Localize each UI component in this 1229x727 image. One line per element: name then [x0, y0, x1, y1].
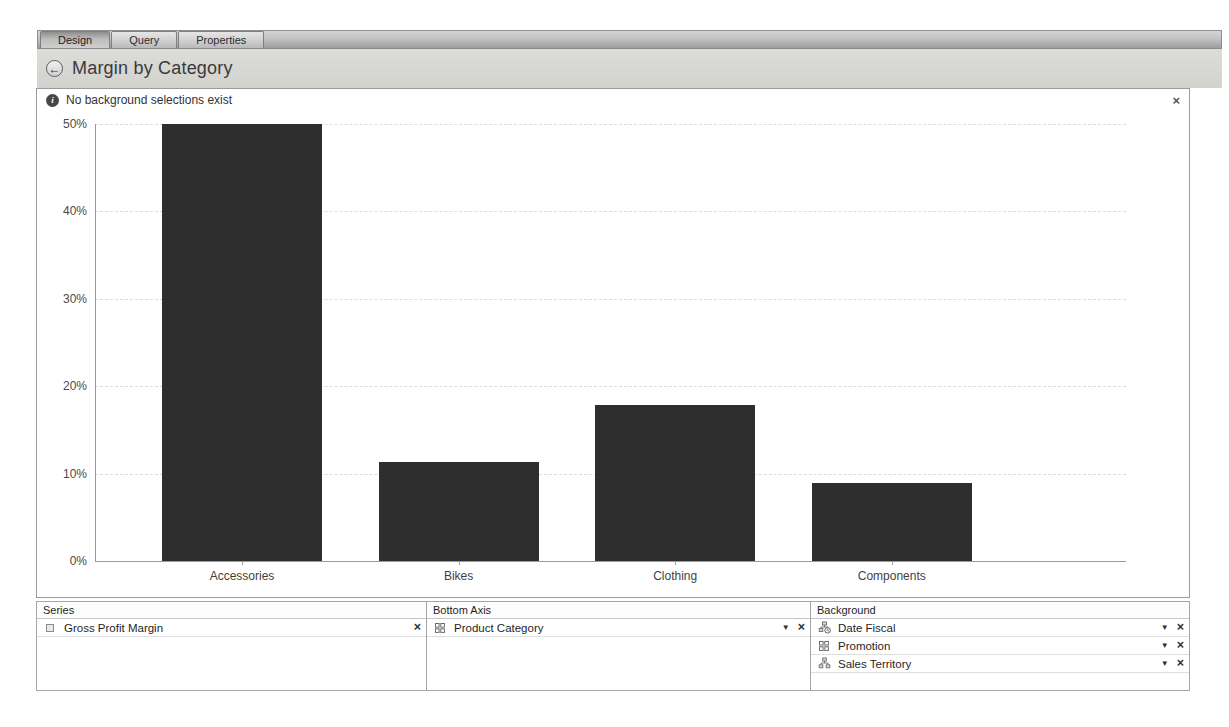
background-item-label: Sales Territory: [838, 658, 1153, 670]
tab-design[interactable]: Design: [40, 31, 110, 48]
dropdown-icon[interactable]: ▼: [1161, 642, 1169, 650]
x-axis-tick: [242, 561, 243, 565]
series-item-gross-profit-margin[interactable]: Gross Profit Margin ×: [37, 619, 426, 637]
bottom-axis-panel-header: Bottom Axis: [427, 602, 810, 619]
bottom-axis-item-product-category[interactable]: Product Category ▼ ×: [427, 619, 810, 637]
bottom-axis-item-label: Product Category: [454, 622, 774, 634]
category-label: Bikes: [369, 569, 549, 583]
y-axis-label: 20%: [49, 379, 87, 393]
report-header: ← Margin by Category: [37, 49, 1222, 88]
background-item-promotion[interactable]: Promotion ▼ ×: [811, 637, 1189, 655]
background-item-label: Date Fiscal: [838, 622, 1153, 634]
background-panel-header: Background: [811, 602, 1189, 619]
remove-icon[interactable]: ×: [1177, 657, 1184, 670]
field-panels: Series Gross Profit Margin × Bottom Axis…: [36, 601, 1190, 691]
bar-accessories[interactable]: [162, 124, 322, 561]
x-axis-line: [95, 561, 1126, 562]
tab-bar: Design Query Properties: [37, 30, 1222, 49]
background-item-date-fiscal[interactable]: Date Fiscal ▼ ×: [811, 619, 1189, 637]
remove-icon[interactable]: ×: [1177, 639, 1184, 652]
y-axis-label: 30%: [49, 292, 87, 306]
dimension-icon: [434, 621, 449, 634]
dashboard-designer-window: Design Query Properties ← Margin by Cate…: [0, 0, 1229, 727]
dropdown-icon[interactable]: ▼: [1161, 660, 1169, 668]
category-label: Accessories: [152, 569, 332, 583]
hierarchy-icon: [818, 657, 833, 670]
remove-icon[interactable]: ×: [1177, 621, 1184, 634]
date-hierarchy-icon: [818, 621, 833, 634]
x-axis-tick: [459, 561, 460, 565]
measure-icon: [44, 621, 59, 634]
remove-icon[interactable]: ×: [798, 621, 805, 634]
x-axis-tick: [675, 561, 676, 565]
dropdown-icon[interactable]: ▼: [782, 624, 790, 632]
y-axis-label: 0%: [49, 554, 87, 568]
series-item-label: Gross Profit Margin: [64, 622, 406, 634]
background-item-sales-territory[interactable]: Sales Territory ▼ ×: [811, 655, 1189, 673]
series-panel-header: Series: [37, 602, 426, 619]
background-item-label: Promotion: [838, 640, 1153, 652]
remove-icon[interactable]: ×: [414, 621, 421, 634]
y-axis-label: 10%: [49, 467, 87, 481]
bar-components[interactable]: [812, 483, 972, 561]
series-panel: Series Gross Profit Margin ×: [36, 601, 427, 691]
back-button[interactable]: ←: [46, 60, 63, 77]
bottom-axis-panel: Bottom Axis Product Category ▼ ×: [426, 601, 811, 691]
category-label: Clothing: [585, 569, 765, 583]
chart-container: i No background selections exist × 0%10%…: [36, 88, 1190, 598]
category-label: Components: [802, 569, 982, 583]
tab-properties[interactable]: Properties: [178, 31, 264, 48]
x-axis-tick: [892, 561, 893, 565]
dimension-icon: [818, 639, 833, 652]
page-title: Margin by Category: [72, 58, 233, 79]
bar-bikes[interactable]: [379, 462, 539, 561]
y-axis-line: [95, 124, 96, 561]
bar-chart: 0%10%20%30%40%50%AccessoriesBikesClothin…: [37, 89, 1189, 597]
background-panel: Background Date Fiscal ▼ ×: [810, 601, 1190, 691]
tab-query[interactable]: Query: [111, 31, 177, 48]
y-axis-label: 40%: [49, 204, 87, 218]
y-axis-label: 50%: [49, 117, 87, 131]
dropdown-icon[interactable]: ▼: [1161, 624, 1169, 632]
bar-clothing[interactable]: [595, 405, 755, 561]
